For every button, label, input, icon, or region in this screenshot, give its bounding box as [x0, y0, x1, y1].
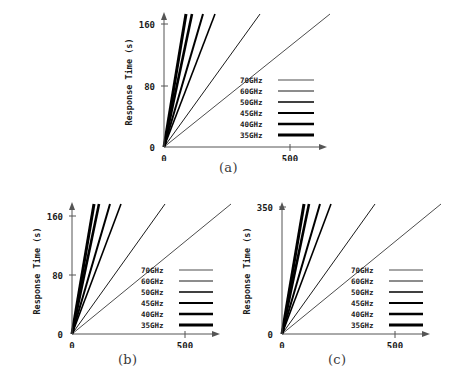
- panel-b-xtick-500: 500: [177, 341, 193, 348]
- panel-c-caption: (c): [328, 352, 346, 367]
- panel-a-ytick-160: 160: [139, 20, 155, 30]
- panel-c-xtick-0: 0: [279, 341, 284, 348]
- y-axis-arrow: [161, 12, 167, 20]
- panel-c: 350 0 0 500 Response Time (s) 70GHz 60GH…: [236, 196, 448, 348]
- legend-label-60GHz: 60GHz: [141, 277, 164, 286]
- panel-a-xtick-0: 0: [161, 154, 166, 161]
- panel-b-caption: (b): [118, 352, 137, 367]
- panel-b: 160 80 0 0 500 Response Time (s) 70GHz 6…: [26, 196, 238, 348]
- panel-a-caption: (a): [219, 160, 238, 175]
- figure-three-panel-response-time: 160 80 0 0 500 Response Time (s) 70GHz 6…: [0, 0, 451, 389]
- legend-label-45GHz: 45GHz: [351, 299, 374, 308]
- legend-label-50GHz: 50GHz: [351, 288, 374, 297]
- panel-c-plot: 350 0 0 500 Response Time (s) 70GHz 60GH…: [236, 196, 448, 348]
- legend-label-60GHz: 60GHz: [240, 87, 263, 96]
- panel-b-ytick-0: 0: [58, 330, 63, 340]
- panel-b-ytick-80: 80: [52, 271, 63, 281]
- panel-c-legend: 70GHz 60GHz 50GHz 45GHz 40GHz 35GHz: [351, 266, 423, 330]
- panel-a-xtick-500: 500: [282, 154, 298, 161]
- panel-c-ylabel: Response Time (s): [242, 228, 252, 315]
- line-50GHz: [282, 204, 331, 334]
- x-axis-arrow: [422, 331, 430, 337]
- legend-label-45GHz: 45GHz: [141, 299, 164, 308]
- legend-label-35GHz: 35GHz: [351, 321, 374, 330]
- line-50GHz: [72, 204, 121, 334]
- panel-a: 160 80 0 0 500 Response Time (s) 70GHz 6…: [118, 6, 348, 161]
- panel-b-xtick-0: 0: [69, 341, 74, 348]
- legend-label-60GHz: 60GHz: [351, 277, 374, 286]
- legend-label-40GHz: 40GHz: [141, 310, 164, 319]
- x-axis-arrow: [212, 331, 220, 337]
- legend-label-70GHz: 70GHz: [240, 76, 263, 85]
- panel-c-ytick-0: 0: [268, 330, 273, 340]
- legend-label-35GHz: 35GHz: [240, 131, 263, 140]
- panel-a-plot: 160 80 0 0 500 Response Time (s) 70GHz 6…: [118, 6, 348, 161]
- legend-label-50GHz: 50GHz: [240, 98, 263, 107]
- panel-a-ylabel: Response Time (s): [124, 39, 134, 126]
- legend-label-40GHz: 40GHz: [240, 120, 263, 129]
- panel-b-ytick-160: 160: [47, 212, 63, 222]
- y-axis-arrow: [69, 202, 75, 210]
- panel-c-xtick-500: 500: [387, 341, 403, 348]
- legend-label-50GHz: 50GHz: [141, 288, 164, 297]
- y-axis-arrow: [279, 202, 285, 210]
- legend-label-45GHz: 45GHz: [240, 109, 263, 118]
- panel-b-legend: 70GHz 60GHz 50GHz 45GHz 40GHz 35GHz: [141, 266, 213, 330]
- panel-a-ytick-80: 80: [144, 82, 155, 92]
- legend-label-70GHz: 70GHz: [351, 266, 374, 275]
- panel-b-ylabel: Response Time (s): [32, 228, 42, 315]
- panel-a-legend: 70GHz 60GHz 50GHz 45GHz 40GHz 35GHz: [240, 76, 314, 140]
- legend-label-40GHz: 40GHz: [351, 310, 374, 319]
- legend-label-35GHz: 35GHz: [141, 321, 164, 330]
- panel-a-ytick-0: 0: [150, 143, 155, 153]
- x-axis-arrow: [319, 144, 327, 150]
- legend-label-70GHz: 70GHz: [141, 266, 164, 275]
- panel-c-ytick-350: 350: [257, 203, 273, 213]
- panel-b-plot: 160 80 0 0 500 Response Time (s) 70GHz 6…: [26, 196, 238, 348]
- line-50GHz: [164, 14, 215, 147]
